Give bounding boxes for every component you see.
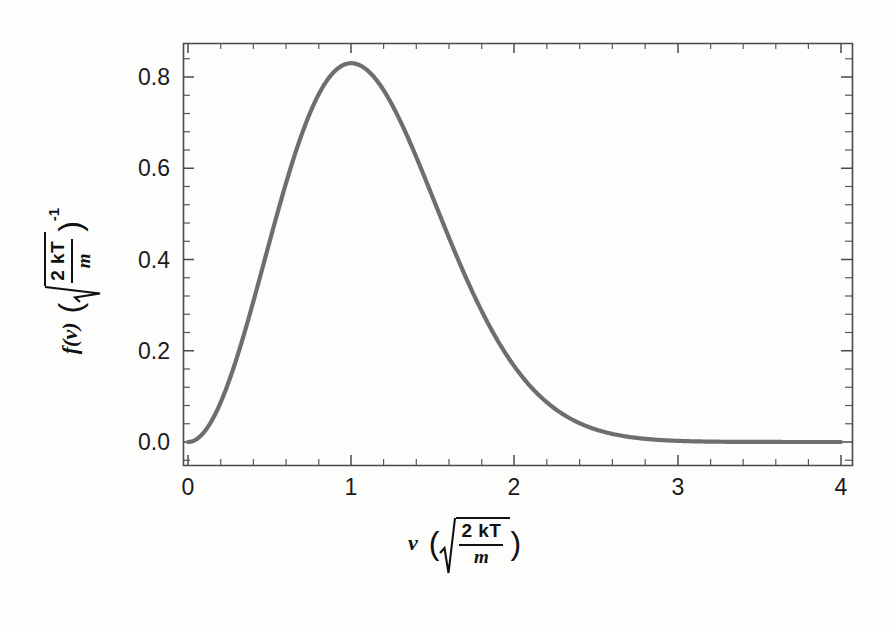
- x-axis-variable: v: [408, 530, 418, 555]
- y-axis-numerator: 2 kT: [48, 239, 70, 283]
- x-tick-label: 2: [508, 474, 521, 500]
- y-tick-label: 0.6: [138, 155, 170, 181]
- y-tick-label: 0.8: [138, 64, 170, 90]
- x-axis-radical: 2 kTm: [439, 517, 510, 575]
- x-axis-close-paren: ): [510, 525, 521, 561]
- y-axis-fraction: 2 kTm: [48, 239, 94, 283]
- y-tick-label: 0.0: [138, 429, 170, 455]
- x-tick-label: 1: [345, 474, 358, 500]
- y-axis-close-paren: ): [52, 221, 88, 232]
- x-axis-fraction: 2 kTm: [459, 521, 503, 567]
- radical-sign-icon: [439, 517, 456, 575]
- y-axis-radical: 2 kTm: [44, 232, 102, 303]
- x-tick-label: 3: [672, 474, 685, 500]
- x-axis-open-paren: (: [429, 525, 440, 561]
- radical-sign-icon: [44, 286, 102, 303]
- figure-canvas: 0 1 2 3 4 0.0 0.2 0.4 0.6 0.8 v(2 kTm) f…: [0, 0, 896, 627]
- y-axis-open-paren: (: [52, 303, 88, 314]
- y-axis-right-ticks: [841, 59, 852, 461]
- y-tick-labels: 0.0 0.2 0.4 0.6 0.8: [138, 64, 170, 455]
- x-tick-label: 4: [835, 474, 848, 500]
- y-axis-variable: f(v): [57, 322, 82, 354]
- x-axis-radicand: 2 kTm: [456, 517, 510, 575]
- x-tick-labels: 0 1 2 3 4: [182, 474, 848, 500]
- y-axis-denominator: m: [71, 239, 95, 283]
- x-axis-numerator: 2 kT: [459, 521, 503, 543]
- maxwell-boltzmann-curve: [188, 63, 841, 442]
- x-tick-label: 0: [182, 474, 195, 500]
- y-tick-label: 0.4: [138, 247, 170, 273]
- x-axis-top-ticks: [188, 43, 841, 53]
- y-axis-radicand: 2 kTm: [44, 232, 102, 286]
- y-tick-label: 0.2: [138, 338, 170, 364]
- x-axis-title: v(2 kTm): [408, 516, 521, 574]
- x-axis-denominator: m: [459, 544, 503, 568]
- axes-frame: [184, 44, 853, 466]
- y-axis-title: f(v)(2 kTm)-1: [43, 151, 101, 411]
- y-axis-exponent: -1: [45, 208, 62, 221]
